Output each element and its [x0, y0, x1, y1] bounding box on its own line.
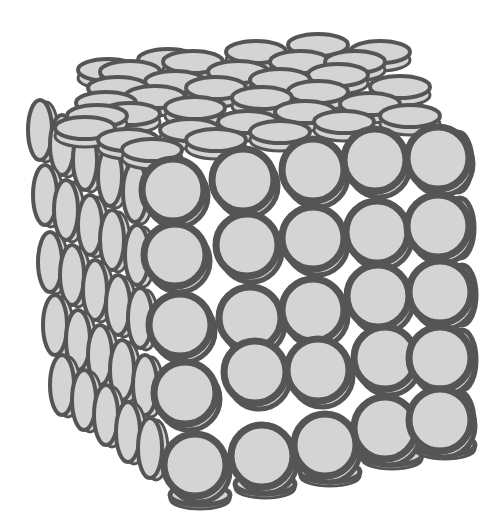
front-disc	[231, 425, 297, 493]
disc-face	[144, 224, 206, 286]
front-disc	[224, 341, 290, 409]
front-disc	[344, 129, 410, 197]
disc-face	[282, 279, 344, 341]
front-disc	[282, 139, 348, 207]
front-disc	[409, 327, 475, 395]
disc-face	[138, 418, 162, 478]
front-face-discs	[142, 127, 475, 502]
front-disc	[407, 195, 473, 263]
front-disc	[212, 149, 278, 217]
front-disc	[216, 214, 282, 282]
disc-face	[344, 129, 406, 191]
front-disc	[287, 339, 353, 407]
disc-face	[346, 201, 408, 263]
disc-face	[164, 434, 226, 496]
disc-face	[407, 127, 469, 189]
disc-face	[149, 294, 211, 356]
disc-cube-figure	[0, 0, 499, 532]
front-disc	[347, 265, 413, 333]
disc-face	[142, 159, 204, 221]
disc-face	[54, 180, 78, 240]
front-disc	[407, 127, 473, 195]
front-disc	[294, 414, 360, 482]
front-disc	[409, 389, 475, 457]
front-disc	[144, 224, 210, 292]
front-disc	[282, 207, 348, 275]
disc-face	[380, 105, 440, 127]
disc-face	[231, 425, 293, 487]
front-disc	[164, 434, 230, 502]
front-disc	[154, 362, 220, 430]
disc-face	[409, 389, 471, 451]
disc-face	[407, 195, 469, 257]
disc-face	[282, 207, 344, 269]
disc-face	[216, 214, 278, 276]
disc-face	[165, 97, 225, 119]
disc-face	[224, 341, 286, 403]
disc-face	[347, 265, 409, 327]
disc-face	[409, 327, 471, 389]
disc-face	[282, 139, 344, 201]
disc-face	[409, 261, 471, 323]
disc-face	[294, 414, 356, 476]
disc-face	[212, 149, 274, 211]
front-disc	[142, 159, 208, 227]
front-disc	[149, 294, 215, 362]
disc-face	[287, 339, 349, 401]
disc-face	[154, 362, 216, 424]
disc-cube-drawing	[0, 0, 499, 532]
front-disc	[346, 201, 412, 269]
front-disc	[409, 261, 475, 329]
disc-face	[43, 295, 67, 355]
